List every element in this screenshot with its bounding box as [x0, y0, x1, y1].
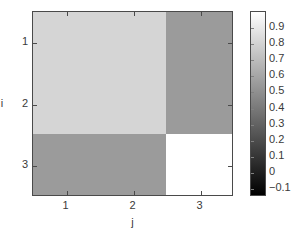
- heatmap-cell: [99, 12, 165, 73]
- x-tick-mark: [134, 12, 135, 16]
- colorbar-tick-mark: [251, 76, 254, 77]
- colorbar-tick-mark: [251, 92, 254, 93]
- colorbar-tick-mark: [251, 28, 254, 29]
- y-tick-mark: [228, 105, 232, 106]
- colorbar-gradient: [251, 12, 265, 195]
- y-tick-label: 1: [8, 35, 28, 48]
- x-tick-label: 1: [51, 199, 81, 212]
- colorbar-tick-mark: [251, 44, 254, 45]
- colorbar-tick-mark: [251, 141, 254, 142]
- heatmap-cell: [166, 12, 232, 73]
- y-tick-label: 3: [8, 158, 28, 171]
- x-tick-mark: [201, 191, 202, 195]
- colorbar-tick-label: 0.7: [269, 52, 293, 65]
- colorbar-tick-label: 0.2: [269, 133, 293, 146]
- y-axis-title: i: [0, 97, 9, 110]
- colorbar-tick-label: 0.4: [269, 101, 293, 114]
- figure-canvas: 123 123 j i 0.90.80.70.60.50.40.30.20.10…: [0, 0, 293, 240]
- x-axis-title: j: [32, 216, 233, 229]
- y-tick-mark: [33, 166, 37, 167]
- x-tick-mark: [134, 191, 135, 195]
- heatmap-cell: [33, 134, 99, 195]
- heatmap-cell: [166, 134, 232, 195]
- colorbar-tick-mark: [251, 109, 254, 110]
- colorbar-tick-label: 0.8: [269, 36, 293, 49]
- heatmap-cell: [33, 73, 99, 134]
- heatmap-cell: [99, 73, 165, 134]
- y-tick-mark: [33, 43, 37, 44]
- y-tick-mark: [33, 105, 37, 106]
- y-tick-mark: [228, 166, 232, 167]
- colorbar-tick-mark: [251, 173, 254, 174]
- y-tick-label: 2: [8, 97, 28, 110]
- y-tick-mark: [228, 43, 232, 44]
- colorbar-tick-label: 0.3: [269, 117, 293, 130]
- colorbar: [250, 11, 266, 196]
- heatmap-axes: [32, 11, 233, 196]
- colorbar-tick-mark: [251, 189, 254, 190]
- colorbar-tick-mark: [251, 157, 254, 158]
- x-tick-mark: [201, 12, 202, 16]
- x-tick-label: 2: [118, 199, 148, 212]
- colorbar-tick-label: 0: [269, 165, 293, 178]
- x-tick-label: 3: [185, 199, 215, 212]
- x-tick-mark: [67, 191, 68, 195]
- colorbar-tick-mark: [251, 60, 254, 61]
- x-tick-mark: [67, 12, 68, 16]
- colorbar-tick-label: 0.5: [269, 84, 293, 97]
- heatmap-grid: [33, 12, 232, 195]
- heatmap-cell: [33, 12, 99, 73]
- colorbar-tick-label: −0.1: [269, 181, 293, 194]
- colorbar-tick-mark: [251, 125, 254, 126]
- heatmap-cell: [99, 134, 165, 195]
- colorbar-tick-label: 0.6: [269, 68, 293, 81]
- colorbar-tick-label: 0.9: [269, 20, 293, 33]
- heatmap-cell: [166, 73, 232, 134]
- colorbar-tick-label: 0.1: [269, 149, 293, 162]
